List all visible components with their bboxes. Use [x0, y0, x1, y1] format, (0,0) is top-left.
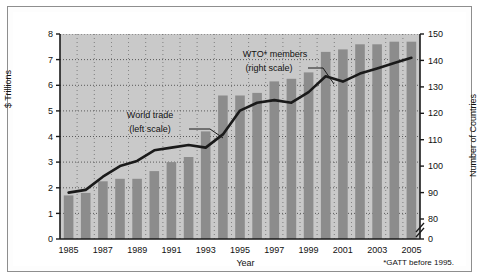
chart-screenshot: $ Trillions Number of Countries Year *GA…	[0, 0, 479, 279]
x-tick-label: 1989	[127, 245, 147, 255]
y-tick-label-left: 6	[48, 80, 53, 90]
y-tick-label-right: 130	[428, 82, 443, 92]
figure-inner: $ Trillions Number of Countries Year *GA…	[13, 12, 466, 266]
x-tick-label: 1985	[59, 245, 79, 255]
figure-card: $ Trillions Number of Countries Year *GA…	[7, 6, 472, 272]
x-tick-label: 2003	[367, 245, 387, 255]
x-tick-label: 1991	[161, 245, 181, 255]
y-tick-label-right: 150	[428, 29, 443, 39]
y-tick-label-right: 90	[428, 188, 438, 198]
y-tick-label-right: 120	[428, 108, 443, 118]
y-tick-label-left: 7	[48, 55, 53, 65]
y-tick-label-right: 80	[428, 214, 438, 224]
y-tick-label-right: 0	[428, 234, 433, 244]
y-tick-label-left: 5	[48, 106, 53, 116]
x-tick-label: 2005	[401, 245, 421, 255]
x-tick-label: 1993	[196, 245, 216, 255]
axes-canvas: 0123456780809010011012013014015019851987…	[13, 12, 478, 278]
y-tick-label-right: 100	[428, 161, 443, 171]
x-tick-label: 1995	[230, 245, 250, 255]
y-tick-label-right: 110	[428, 135, 442, 145]
x-tick-label: 2001	[333, 245, 353, 255]
y-tick-label-left: 8	[48, 29, 53, 39]
x-tick-label: 1999	[299, 245, 319, 255]
y-tick-label-right: 140	[428, 56, 443, 66]
y-tick-label-left: 1	[48, 209, 53, 219]
x-tick-label: 1987	[93, 245, 113, 255]
y-tick-label-left: 0	[48, 234, 53, 244]
y-tick-label-left: 2	[48, 183, 53, 193]
y-axis-left-title: $ Trillions	[3, 70, 13, 108]
x-tick-label: 1997	[264, 245, 284, 255]
y-tick-label-left: 3	[48, 157, 53, 167]
y-tick-label-left: 4	[48, 132, 53, 142]
